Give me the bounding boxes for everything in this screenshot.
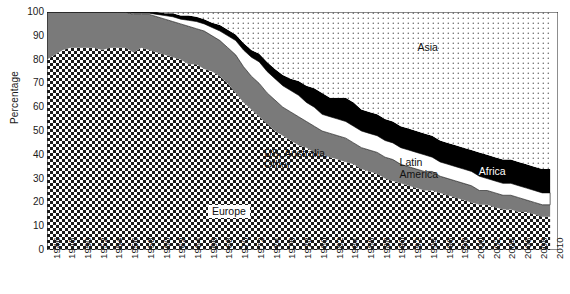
x-tick-label: 1978 bbox=[302, 237, 313, 259]
x-tick-label: 1988 bbox=[381, 237, 392, 259]
x-tick-label: 1998 bbox=[459, 237, 470, 259]
stacked-area-chart: Percentage 0102030405060708090100 AsiaUS… bbox=[0, 0, 570, 294]
x-tick-label: 2006 bbox=[522, 237, 533, 259]
x-tick-label: 1984 bbox=[349, 237, 360, 259]
x-tick-label: 1950 bbox=[82, 237, 93, 259]
y-tick-label: 60 bbox=[18, 102, 44, 112]
y-tick-label: 40 bbox=[18, 150, 44, 160]
x-tick-label: 2002 bbox=[491, 237, 502, 259]
x-tick-label: 1960 bbox=[161, 237, 172, 259]
x-tick-label: 1976 bbox=[286, 237, 297, 259]
x-tick-label: 1974 bbox=[271, 237, 282, 259]
x-tick-label: 1946 bbox=[51, 237, 62, 259]
y-tick-label: 70 bbox=[18, 78, 44, 88]
x-tick-label: 1982 bbox=[334, 237, 345, 259]
x-axis-tick-labels: 1946194819501952195419561958196019621964… bbox=[47, 253, 558, 294]
x-tick-label: 1966 bbox=[208, 237, 219, 259]
x-tick-label: 1964 bbox=[192, 237, 203, 259]
y-tick-label: 50 bbox=[18, 126, 44, 136]
y-tick-label: 0 bbox=[18, 245, 44, 255]
x-tick-label: 1962 bbox=[176, 237, 187, 259]
y-tick-label: 100 bbox=[18, 7, 44, 17]
y-axis-tick-labels: 0102030405060708090100 bbox=[14, 0, 44, 294]
x-tick-label: 1980 bbox=[318, 237, 329, 259]
x-tick-label: 1968 bbox=[223, 237, 234, 259]
x-tick-label: 1958 bbox=[145, 237, 156, 259]
x-tick-label: 1970 bbox=[239, 237, 250, 259]
x-tick-label: 2008 bbox=[538, 237, 549, 259]
y-tick-label: 90 bbox=[18, 31, 44, 41]
x-tick-label: 1996 bbox=[444, 237, 455, 259]
x-tick-label: 1992 bbox=[412, 237, 423, 259]
y-tick-label: 10 bbox=[18, 221, 44, 231]
y-tick-label: 20 bbox=[18, 197, 44, 207]
x-tick-label: 1994 bbox=[428, 237, 439, 259]
x-tick-label: 2004 bbox=[506, 237, 517, 259]
plot-area bbox=[47, 12, 558, 250]
x-tick-label: 1956 bbox=[129, 237, 140, 259]
x-tick-label: 1990 bbox=[396, 237, 407, 259]
x-tick-label: 1954 bbox=[113, 237, 124, 259]
x-tick-label: 1952 bbox=[98, 237, 109, 259]
y-tick-label: 30 bbox=[18, 174, 44, 184]
y-tick-label: 80 bbox=[18, 55, 44, 65]
x-tick-label: 2000 bbox=[475, 237, 486, 259]
x-tick-label: 1948 bbox=[66, 237, 77, 259]
x-tick-label: 1986 bbox=[365, 237, 376, 259]
x-tick-label: 2010 bbox=[554, 237, 565, 259]
x-tick-label: 1972 bbox=[255, 237, 266, 259]
